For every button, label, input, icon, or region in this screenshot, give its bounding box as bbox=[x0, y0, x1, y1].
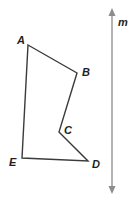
vertex-label-e: E bbox=[9, 156, 17, 168]
line-m-label: m bbox=[118, 16, 128, 28]
geometry-figure: A B C D E m bbox=[0, 0, 134, 202]
vertex-label-b: B bbox=[82, 66, 90, 78]
vertex-label-c: C bbox=[64, 124, 73, 136]
geometry-diagram: A B C D E m bbox=[0, 0, 134, 202]
polygon-abcde bbox=[22, 45, 88, 161]
line-m-arrowhead-top bbox=[109, 8, 116, 16]
line-m-arrowhead-bottom bbox=[109, 186, 116, 194]
vertex-label-a: A bbox=[16, 34, 25, 46]
vertex-label-d: D bbox=[92, 158, 100, 170]
